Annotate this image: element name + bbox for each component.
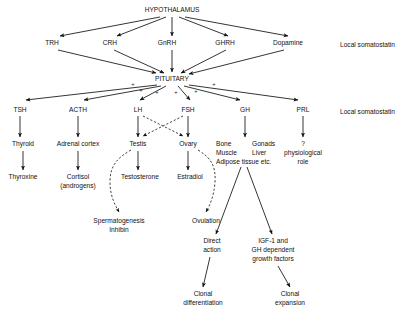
node-hypothalamus: HYPOTHALAMUS <box>145 6 200 13</box>
node-igf1-line2: GH dependent <box>252 246 295 254</box>
gh-target-col1-line3: Adipose tissue etc. <box>216 158 272 166</box>
node-ovulation: Ovulation <box>192 217 220 224</box>
node-pituitary: PITUITARY <box>155 75 189 82</box>
node-thyroxine: Thyroxine <box>9 173 38 181</box>
side-note-local-somatostatin-1: Local somatostatin <box>340 41 395 48</box>
plus-sign-1: + <box>131 81 134 87</box>
node-ghrh: GHRH <box>215 39 235 46</box>
gh-target-branch-arrows <box>216 167 272 234</box>
node-testosterone: Testosterone <box>121 173 159 180</box>
node-prl-target: ? physiological role <box>284 140 322 165</box>
node-clonal-expansion-line1: Clonal <box>281 290 300 297</box>
hypothalamus-to-releasing-hormones-arrows <box>60 17 288 36</box>
node-gnrh: GnRH <box>158 39 177 46</box>
node-igf1-line3: growth factors <box>252 255 294 263</box>
node-prl: PRL <box>297 106 310 113</box>
gh-target-col1-line1: Bone <box>216 140 232 147</box>
plus-sign-4: + <box>174 89 177 95</box>
node-igf1-line1: IGF-1 and <box>258 237 288 244</box>
plus-sign-2: + <box>139 87 142 93</box>
prl-target-line3: role <box>298 158 309 165</box>
prl-target-line2: physiological <box>284 149 322 157</box>
node-testis: Testis <box>130 140 148 147</box>
node-crh: CRH <box>103 39 118 46</box>
gh-target-col2-line2: Liver <box>252 149 267 156</box>
plus-sign-5: + <box>194 88 197 94</box>
node-ovary: Ovary <box>179 140 197 148</box>
node-clonal-differentiation-line2: differentiation <box>183 299 223 306</box>
node-tsh: TSH <box>13 106 26 113</box>
gonad-outcome-dashed-paths <box>110 150 215 212</box>
side-note-local-somatostatin-2: Local somatostatin <box>340 108 395 115</box>
node-direct-action-line2: action <box>203 246 221 253</box>
node-gh: GH <box>240 106 250 113</box>
node-direct-action-line1: Direct <box>203 237 220 244</box>
node-dopamine: Dopamine <box>273 39 303 47</box>
gh-target-col1-line2: Muscle <box>216 149 237 156</box>
node-lh: LH <box>134 106 143 113</box>
node-cortisol: Cortisol <box>67 173 90 180</box>
node-acth: ACTH <box>69 106 87 113</box>
node-fsh: FSH <box>181 106 194 113</box>
node-clonal-differentiation-line1: Clonal <box>194 290 213 297</box>
plus-sign-6: + <box>212 81 215 87</box>
node-estradiol: Estradiol <box>177 173 203 180</box>
plus-sign-3: + <box>155 89 158 95</box>
pituitary-to-hormones-arrows <box>26 85 298 100</box>
node-trh: TRH <box>45 39 59 46</box>
hormones-to-targets-arrows <box>20 116 303 137</box>
gh-target-col2-line1: Gonads <box>252 140 276 147</box>
node-adrenal-cortex: Adrenal cortex <box>57 140 100 147</box>
node-androgens: (androgens) <box>60 182 96 190</box>
node-clonal-expansion-line2: expansion <box>275 299 305 307</box>
node-inhibin: Inhibin <box>109 226 129 233</box>
node-spermatogenesis: Spermatogenesis <box>93 217 145 225</box>
node-gh-targets: Bone Muscle Adipose tissue etc. Gonads L… <box>216 140 276 166</box>
endocrine-axis-diagram: HYPOTHALAMUS PITUITARY TRH CRH GnRH GHRH… <box>0 0 406 313</box>
node-thyroid: Thyroid <box>12 140 34 148</box>
targets-to-products-arrows <box>23 151 188 170</box>
prl-target-line1: ? <box>301 140 305 147</box>
releasing-hormones-to-pituitary-arrows <box>58 50 284 74</box>
plus-sign-labels: + + + + + + <box>131 81 215 95</box>
